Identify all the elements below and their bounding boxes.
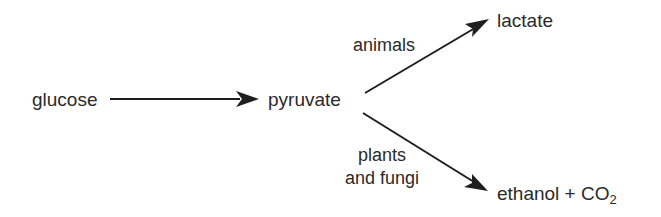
- node-glucose: glucose: [32, 90, 98, 109]
- edge-label-animals: animals: [353, 34, 415, 57]
- fermentation-diagram: glucose pyruvate lactate ethanol + CO2 a…: [0, 0, 661, 217]
- edge-label-plants-fungi: plants and fungi: [340, 144, 424, 191]
- label-plants: plants: [340, 144, 424, 167]
- ethanol-co2-text: ethanol + CO: [497, 183, 610, 204]
- node-pyruvate: pyruvate: [268, 90, 341, 109]
- node-lactate: lactate: [497, 11, 553, 30]
- arrow-glucose-to-pyruvate: [110, 91, 259, 107]
- node-ethanol-co2: ethanol + CO2: [497, 184, 617, 206]
- co2-subscript: 2: [610, 192, 617, 207]
- label-and-fungi: and fungi: [340, 167, 424, 190]
